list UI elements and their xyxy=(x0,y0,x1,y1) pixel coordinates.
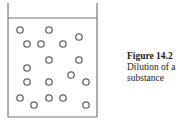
particle xyxy=(46,27,52,33)
figure-label: Figure 14.2 xyxy=(127,51,176,62)
particle xyxy=(46,79,52,85)
particle xyxy=(76,57,82,63)
particles xyxy=(17,27,89,108)
particle xyxy=(38,41,44,47)
particle xyxy=(24,65,30,71)
particle xyxy=(46,95,52,101)
particle xyxy=(46,57,52,63)
particle xyxy=(76,34,82,40)
particle xyxy=(83,79,89,85)
particle xyxy=(60,95,66,101)
particle xyxy=(24,41,30,47)
particle xyxy=(17,27,23,33)
caption-line-1: Dilution of a xyxy=(127,62,176,73)
particle xyxy=(68,72,74,78)
figure-caption: Figure 14.2 Dilution of a substance xyxy=(127,51,176,84)
caption-line-2: substance xyxy=(127,73,176,84)
particle xyxy=(60,41,66,47)
particle xyxy=(24,79,30,85)
particle xyxy=(31,102,37,108)
particle xyxy=(17,95,23,101)
particle xyxy=(83,102,89,108)
